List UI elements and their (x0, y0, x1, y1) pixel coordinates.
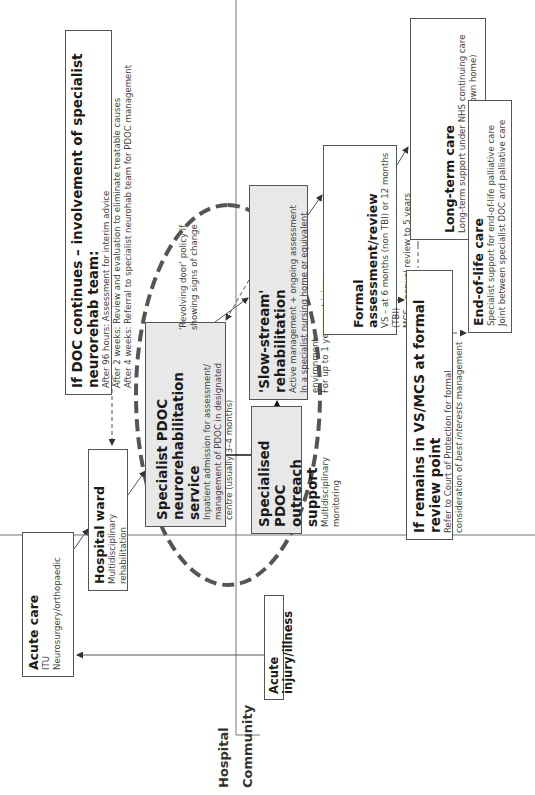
remains-vs-mcs-line: Refer to Court of Protection for formal (443, 277, 454, 533)
doc-continues-line: After 96 hours: Assessment for interim a… (101, 37, 112, 388)
specialist-pdoc-title: Specialist PDOC (154, 329, 170, 520)
end-of-life-line: Joint between specialist DOC and palliat… (497, 107, 508, 326)
outreach-title: outreach support (288, 413, 320, 527)
remains-text: consideration of (454, 461, 464, 533)
specialist-pdoc-line: centre (usually 3–4 months) (224, 329, 235, 520)
acute-care-box: Acute care ITU Neurosurgery/orthopaedic (22, 532, 74, 677)
slow-stream-title: 'Slow-stream' rehabilitation (256, 192, 288, 393)
end-of-life-line: Specialist support for end-of-life palli… (486, 107, 497, 326)
formal-review-title: Formal assessment/review (352, 152, 380, 328)
slow-stream-box: 'Slow-stream' rehabilitation Active mana… (249, 185, 308, 400)
doc-continues-title: If DOC continues – involvement of specia… (69, 37, 101, 388)
slow-stream-line: In a specialist nursing home or equivale… (299, 192, 321, 393)
acute-care-line: ITU (41, 539, 52, 670)
acute-care-title: Acute care (27, 539, 41, 670)
region-label-hospital: Hospital (216, 727, 231, 788)
formal-review-box: Formal assessment/review VS – at 6 month… (323, 145, 397, 335)
long-term-care-title: Long-term care (443, 25, 457, 233)
remains-vs-mcs-box: If remains in VS/MCS at formal review po… (406, 270, 453, 540)
doc-continues-box: If DOC continues – involvement of specia… (65, 30, 112, 395)
hospital-ward-box: Hospital ward Multidisciplinary rehabili… (88, 449, 128, 591)
doc-continues-line: After 4 weeks: Referral to specialist ne… (123, 37, 134, 388)
specialist-pdoc-line: management of PDOC in designated (213, 329, 224, 520)
acute-care-line: Neurosurgery/orthopaedic (52, 539, 63, 670)
specialist-pdoc-title: neurorehabilitation service (170, 329, 202, 520)
revolving-door-note: 'Revolving door' policy if showing signs… (178, 224, 199, 330)
long-term-care-line: Long-term support under NHS continuing c… (457, 25, 468, 233)
revolving-door-note-line: showing signs of change (189, 224, 200, 330)
acute-injury-title: Acute injury/illness (267, 601, 295, 694)
slow-stream-line: Active management + ongoing assessment (288, 192, 299, 393)
specialist-pdoc-line: Inpatient admission for assessment/ (202, 329, 213, 520)
outreach-line: Multidisciplinary monitoring (320, 413, 342, 527)
outreach-support-box: Specialised PDOC outreach support Multid… (251, 406, 302, 534)
revolving-door-note-line: 'Revolving door' policy if (178, 224, 189, 330)
hospital-ward-line: Multidisciplinary rehabilitation (107, 456, 129, 584)
region-label-community: Community (240, 705, 255, 788)
hospital-ward-title: Hospital ward (93, 456, 107, 584)
end-of-life-title: End-of-life care (472, 107, 486, 326)
acute-injury-box: Acute injury/illness (264, 595, 284, 700)
specialist-pdoc-box: Specialist PDOC neurorehabilitation serv… (145, 322, 226, 527)
remains-vs-mcs-title: If remains in VS/MCS at formal review po… (411, 277, 443, 533)
formal-review-line: VS – at 6 months (non TBI) or 12 months … (380, 152, 402, 328)
remains-vs-mcs-line: consideration of best interests manageme… (454, 277, 465, 533)
end-of-life-care-box: End-of-life care Specialist support for … (468, 100, 512, 333)
outreach-title: Specialised PDOC (256, 413, 288, 527)
best-interests-emphasis: best interests (454, 402, 464, 461)
pdoc-care-pathway-diagram: Hospital Community Acute care ITU Neuros… (0, 0, 535, 795)
doc-continues-line: After 2 weeks: Review and evaluation to … (112, 37, 123, 388)
remains-text: management (454, 342, 464, 402)
